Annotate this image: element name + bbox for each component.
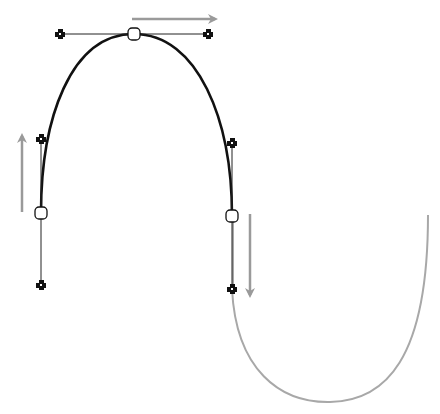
- handle-left-top[interactable]: [36, 134, 46, 144]
- left-anchor-point[interactable]: [35, 207, 47, 219]
- unselected-path-segment[interactable]: [232, 215, 428, 402]
- handle-top-left[interactable]: [55, 29, 65, 39]
- handle-endpoints: [36, 29, 237, 294]
- direction-arrows: [22, 19, 250, 295]
- handle-lines: [41, 34, 232, 289]
- handle-right-top[interactable]: [227, 138, 237, 148]
- bezier-diagram: [0, 0, 440, 414]
- right-anchor-point[interactable]: [226, 210, 238, 222]
- handle-left-bottom[interactable]: [36, 280, 46, 290]
- handle-top-right[interactable]: [203, 29, 213, 39]
- top-anchor-point[interactable]: [128, 28, 140, 40]
- anchor-points: [35, 28, 238, 222]
- handle-right-bottom[interactable]: [227, 284, 237, 294]
- selected-path[interactable]: [41, 34, 232, 216]
